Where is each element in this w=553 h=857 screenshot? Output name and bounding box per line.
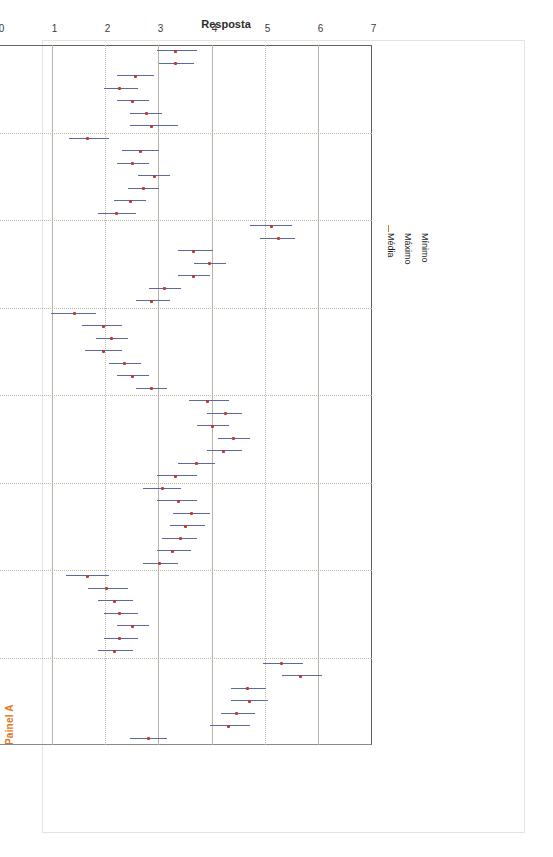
- mean-marker: [190, 512, 193, 515]
- y-tick-6: 6: [311, 23, 329, 34]
- mean-marker: [153, 175, 156, 178]
- legend-media-dash-icon: [388, 225, 389, 232]
- mean-marker: [86, 575, 89, 578]
- chart-stage: MínimoMáximoMédia Resposta 01234567 1234…: [52, 45, 432, 805]
- y-tick-3: 3: [152, 23, 170, 34]
- mean-marker: [211, 425, 214, 428]
- mean-marker: [131, 625, 134, 628]
- mean-marker: [113, 650, 116, 653]
- mean-marker: [131, 375, 134, 378]
- mean-marker: [248, 700, 251, 703]
- category-separator: [0, 658, 372, 659]
- mean-marker: [142, 187, 145, 190]
- category-separator: [0, 308, 372, 309]
- mean-marker: [102, 350, 105, 353]
- mean-marker: [246, 687, 249, 690]
- category-separator: [0, 395, 372, 396]
- mean-marker: [150, 125, 153, 128]
- mean-marker: [113, 600, 116, 603]
- category-separator: [0, 133, 372, 134]
- legend-item-media: Média: [386, 233, 396, 258]
- mean-marker: [129, 200, 132, 203]
- category-separator: [0, 220, 372, 221]
- y-tick-4: 4: [205, 23, 223, 34]
- mean-marker: [105, 587, 108, 590]
- mean-marker: [174, 50, 177, 53]
- legend-item-maximo: Máximo: [403, 233, 413, 265]
- y-tick-1: 1: [46, 23, 64, 34]
- mean-marker: [161, 487, 164, 490]
- mean-marker: [158, 562, 161, 565]
- legend-item-minimo: Mínimo: [420, 233, 430, 263]
- mean-marker: [270, 225, 273, 228]
- mean-marker: [299, 675, 302, 678]
- mean-marker: [227, 725, 230, 728]
- mean-marker: [150, 387, 153, 390]
- mean-marker: [222, 450, 225, 453]
- mean-marker: [177, 500, 180, 503]
- mean-marker: [131, 100, 134, 103]
- y-tick-2: 2: [99, 23, 117, 34]
- y-tick-7: 7: [365, 23, 383, 34]
- category-separator: [0, 483, 372, 484]
- top-caption-strip: [0, 0, 553, 14]
- y-tick-5: 5: [258, 23, 276, 34]
- range-line: [170, 525, 205, 526]
- mean-marker: [102, 325, 105, 328]
- mean-marker: [235, 712, 238, 715]
- category-separator: [0, 570, 372, 571]
- mean-marker: [206, 400, 209, 403]
- mean-marker: [134, 75, 137, 78]
- mean-marker: [174, 475, 177, 478]
- range-line: [178, 250, 213, 251]
- mean-marker: [171, 550, 174, 553]
- range-line: [69, 138, 109, 139]
- y-tick-0: 0: [0, 23, 11, 34]
- mean-marker: [145, 112, 148, 115]
- mean-marker: [174, 62, 177, 65]
- mean-marker: [139, 150, 142, 153]
- mean-marker: [73, 312, 76, 315]
- range-line: [130, 125, 178, 126]
- range-line: [157, 550, 192, 551]
- mean-marker: [150, 300, 153, 303]
